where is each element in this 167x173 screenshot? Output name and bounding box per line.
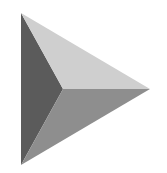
play-triangle-icon bbox=[0, 0, 167, 173]
play-icon-canvas: Play bbox=[0, 0, 167, 173]
